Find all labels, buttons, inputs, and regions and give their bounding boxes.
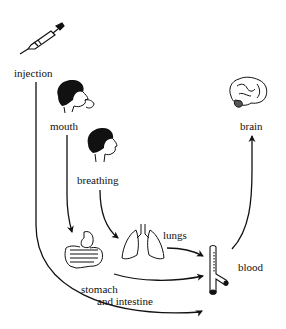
label-brain: brain [240, 120, 263, 132]
stomach-intestine-icon [62, 230, 112, 270]
arrow-stomach-to-blood [114, 274, 203, 280]
label-intestine: and intestine [97, 295, 153, 307]
child-head-eating-icon [52, 78, 100, 114]
syringe-icon [18, 22, 66, 58]
label-mouth: mouth [50, 120, 78, 132]
label-lungs: lungs [163, 229, 187, 241]
arrow-mouth-to-stomach [67, 135, 72, 232]
label-stomach: stomach [81, 283, 118, 295]
blood-vessel-icon [204, 244, 234, 296]
arrow-lungs-to-blood [167, 248, 203, 256]
child-head-breathing-icon [84, 126, 124, 166]
lungs-icon [120, 222, 166, 264]
label-blood: blood [238, 261, 263, 273]
label-injection: injection [14, 67, 53, 79]
diagram-canvas: injection mouth breathing lungs blood br… [0, 0, 286, 329]
label-breathing: breathing [77, 174, 119, 186]
brain-icon [227, 76, 269, 112]
arrow-blood-to-brain [232, 136, 252, 249]
arrow-injection-to-blood [36, 82, 202, 313]
